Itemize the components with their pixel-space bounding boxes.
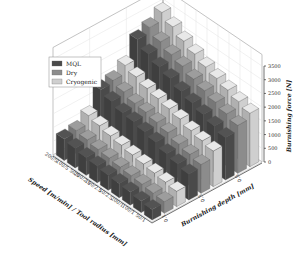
legend-label: MQL [66,60,81,67]
legend-swatch [52,70,62,75]
z-axis-title: Burnishing force [N] [285,80,293,154]
z-tick-label: 500 [268,145,278,151]
legend-label: Cryogenic [66,78,98,86]
z-tick-label: 2500 [268,90,281,96]
z-tick-label: 2000 [268,104,281,110]
chart-legend: MQLDryCryogenic [49,57,101,87]
z-tick-label: 1500 [268,118,281,124]
chart-3d-bar: 0500100015002000250030003500Burnishing f… [0,0,308,259]
legend-swatch [52,79,62,84]
z-tick-label: 1000 [268,132,281,138]
z-tick-label: 0 [268,159,271,165]
chart-bars [56,2,259,220]
z-tick-label: 3000 [268,77,281,83]
legend-label: Dry [66,69,78,77]
legend-swatch [52,61,62,66]
z-tick-label: 3500 [268,63,281,69]
